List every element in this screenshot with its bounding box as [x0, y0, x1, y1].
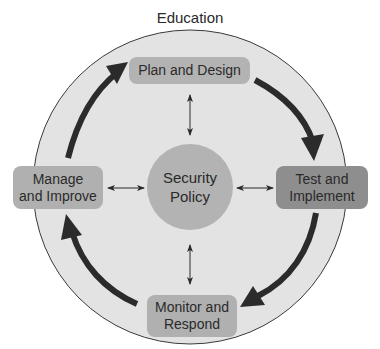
- node-manage-label-line2: and Improve: [19, 188, 97, 205]
- node-plan-and-design: Plan and Design: [129, 57, 250, 84]
- node-monitor-and-respond: Monitor and Respond: [147, 295, 237, 337]
- node-test-and-implement: Test and Implement: [276, 166, 368, 209]
- node-test-label-line2: Implement: [289, 188, 354, 205]
- center-label-line2: Policy: [163, 187, 217, 206]
- security-policy-cycle-diagram: Education Plan and Design Manage and Imp…: [0, 0, 380, 349]
- node-plan-label: Plan and Design: [138, 62, 241, 79]
- node-monitor-label-line2: Respond: [155, 316, 229, 333]
- node-security-policy: Security Policy: [147, 144, 233, 230]
- diagram-title: Education: [0, 9, 380, 26]
- node-test-label-line1: Test and: [289, 171, 354, 188]
- node-monitor-label-line1: Monitor and: [155, 299, 229, 316]
- center-label-line1: Security: [163, 168, 217, 187]
- node-manage-and-improve: Manage and Improve: [13, 166, 103, 209]
- node-manage-label-line1: Manage: [19, 171, 97, 188]
